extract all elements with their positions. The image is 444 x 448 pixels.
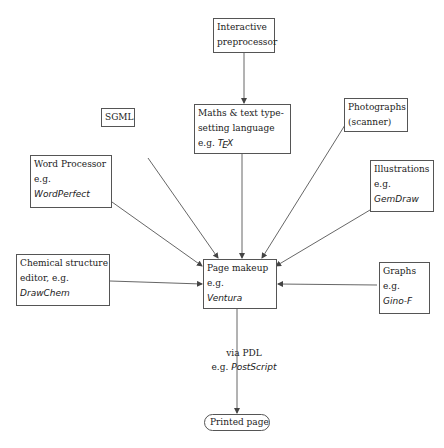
edge-sgml-to-pagemakeup: [148, 158, 218, 258]
node-example: e.g. TEX: [198, 136, 287, 151]
node-word-processor: Word Processor e.g. WordPerfect: [30, 155, 112, 208]
node-line: (scanner): [348, 115, 404, 130]
node-line: editor, e.g.: [20, 271, 106, 286]
node-line: Maths & text type-: [198, 106, 287, 121]
node-line: Printed page: [210, 416, 264, 429]
node-line: setting language: [198, 121, 287, 136]
label-line: via PDL: [198, 346, 290, 360]
node-printed-page: Printed page: [204, 414, 270, 431]
edge-word-to-pagemakeup: [112, 202, 202, 266]
node-line: Chemical structure: [20, 256, 106, 271]
edge-chemical-to-pagemakeup: [110, 281, 202, 284]
node-line: preprocessor: [217, 35, 271, 50]
node-example: DrawChem: [20, 286, 106, 301]
node-illustrations: Illustrations e.g. GemDraw: [370, 160, 434, 212]
node-line: e.g.: [207, 276, 273, 291]
tex-logo: TEX: [218, 138, 233, 148]
edge-illustrations-to-pagemakeup: [276, 210, 370, 266]
node-example: WordPerfect: [34, 187, 108, 202]
node-graphs: Graphs e.g. Gino-F: [379, 262, 430, 314]
node-line: e.g.: [34, 172, 108, 187]
node-line: e.g.: [374, 177, 430, 192]
node-line: Illustrations: [374, 162, 430, 177]
node-line: Page makeup: [207, 261, 273, 276]
edges-layer: [0, 0, 444, 448]
node-example: Gino-F: [383, 294, 426, 309]
node-sgml: SGML: [101, 108, 135, 127]
node-photographs: Photographs (scanner): [344, 98, 408, 132]
node-example: Ventura: [207, 291, 273, 306]
node-line: Interactive: [217, 20, 271, 35]
node-interactive-preprocessor: Interactive preprocessor: [213, 18, 275, 53]
node-maths-typesetting: Maths & text type- setting language e.g.…: [194, 104, 291, 154]
node-page-makeup: Page makeup e.g. Ventura: [203, 259, 277, 309]
edge-graphs-to-pagemakeup: [278, 284, 377, 285]
node-line: Photographs: [348, 100, 404, 115]
node-line: Word Processor: [34, 157, 108, 172]
node-line: SGML: [105, 110, 131, 125]
node-chemical-structure-editor: Chemical structure editor, e.g. DrawChem: [16, 254, 110, 306]
flow-diagram: Interactive preprocessor Maths & text ty…: [0, 0, 444, 448]
node-line: Graphs: [383, 264, 426, 279]
node-line: e.g.: [383, 279, 426, 294]
label-line: e.g. PostScript: [198, 360, 290, 374]
edge-label-via-pdl: via PDL e.g. PostScript: [198, 346, 290, 374]
node-example: GemDraw: [374, 192, 430, 207]
